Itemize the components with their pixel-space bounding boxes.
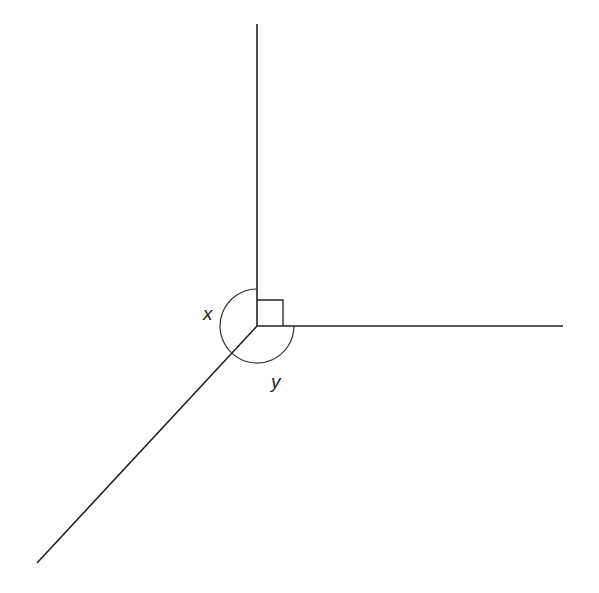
ray-down-left xyxy=(37,326,257,563)
angle-x-arc xyxy=(220,289,257,353)
angle-x-label: x xyxy=(202,303,214,324)
right-angle-marker xyxy=(257,300,283,326)
angle-y-label: y xyxy=(269,371,282,392)
angle-y-arc xyxy=(232,326,294,363)
angle-diagram: x y xyxy=(0,0,599,593)
